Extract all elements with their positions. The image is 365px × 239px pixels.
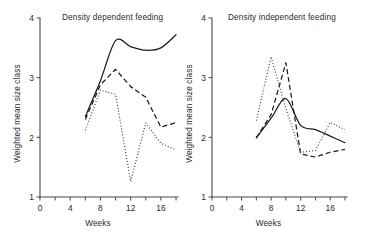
x-tick-label: 8 [98, 203, 103, 213]
x-tick-label: 0 [210, 203, 215, 213]
x-axis-label: Weeks [256, 219, 282, 228]
x-tick-label: 8 [269, 203, 274, 213]
y-tick-label: 3 [29, 73, 34, 83]
chart-panel-density-dependent: Density dependent feeding12340481216Week… [13, 13, 178, 228]
series-line-dashed [85, 69, 176, 127]
figure-container: Density dependent feeding12340481216Week… [0, 0, 365, 239]
series-line-dotted [85, 90, 176, 181]
y-tick-label: 3 [201, 73, 206, 83]
x-tick-label: 16 [326, 203, 336, 213]
y-axis-label: Weighted mean size class [13, 64, 22, 163]
chart-panel-density-independent: Density independent feeding12340481216We… [185, 13, 347, 228]
y-tick-label: 1 [201, 192, 206, 202]
y-tick-label: 2 [29, 133, 34, 143]
axes-group: 12340481216 [29, 13, 178, 212]
panel-title: Density independent feeding [228, 13, 336, 22]
x-tick-label: 16 [156, 203, 166, 213]
y-tick-label: 4 [201, 13, 206, 23]
y-tick-label: 1 [29, 192, 34, 202]
y-tick-label: 4 [29, 13, 34, 23]
x-tick-label: 12 [126, 203, 136, 213]
x-tick-label: 4 [239, 203, 244, 213]
series-group [256, 57, 345, 157]
series-line-solid [256, 98, 345, 142]
figure-svg: Density dependent feeding12340481216Week… [0, 0, 365, 239]
x-axis-label: Weeks [85, 219, 111, 228]
panel-title: Density dependent feeding [62, 13, 163, 22]
series-line-dotted [256, 57, 345, 152]
series-line-solid [85, 35, 176, 117]
x-tick-label: 4 [68, 203, 73, 213]
x-tick-label: 0 [38, 203, 43, 213]
y-tick-label: 2 [201, 133, 206, 143]
y-axis-label: Weighted mean size class [185, 64, 194, 163]
series-line-dashed [256, 63, 345, 157]
series-group [85, 35, 176, 182]
x-tick-label: 12 [296, 203, 306, 213]
